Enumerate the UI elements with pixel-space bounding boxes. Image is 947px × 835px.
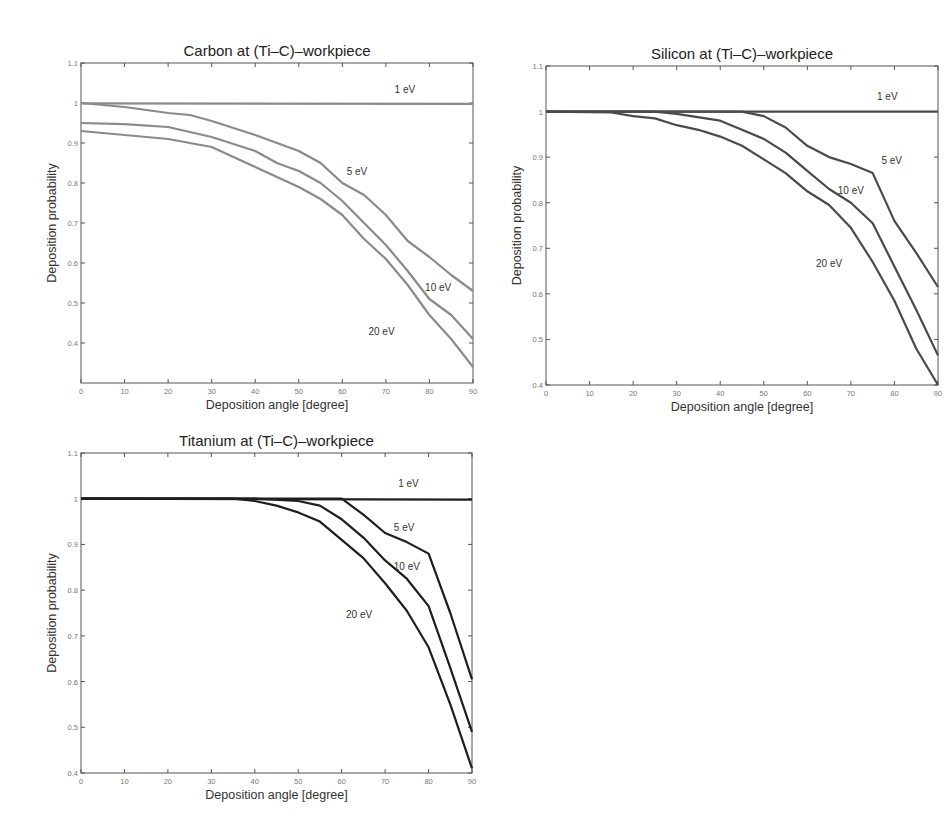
x-tick-label: 70 [382, 387, 390, 396]
x-tick-label: 20 [164, 387, 172, 396]
x-tick-label: 80 [425, 387, 433, 396]
x-tick-label: 30 [672, 389, 680, 398]
x-tick-label: 20 [164, 777, 172, 786]
axes-frame [81, 453, 472, 773]
y-tick-label: 1 [74, 495, 78, 504]
y-tick-label: 1.1 [68, 59, 78, 68]
x-tick-label: 60 [337, 777, 345, 786]
y-tick-label: 0.6 [68, 259, 78, 268]
axes-frame [81, 63, 473, 383]
series-label: 1 eV [877, 91, 898, 102]
y-tick-label: 0.6 [533, 290, 543, 299]
y-tick-label: 0.9 [533, 153, 543, 162]
figure: Carbon at (Ti–C)–workpiece01020304050607… [0, 0, 947, 835]
x-tick-label: 90 [468, 777, 476, 786]
x-tick-label: 60 [803, 389, 811, 398]
x-tick-label: 30 [207, 387, 215, 396]
chart-silicon: Silicon at (Ti–C)–workpiece0102030405060… [510, 45, 942, 414]
x-axis-label: Deposition angle [degree] [205, 788, 347, 802]
x-tick-label: 70 [847, 389, 855, 398]
x-tick-label: 60 [338, 387, 346, 396]
x-tick-label: 40 [251, 387, 259, 396]
series-line-20-ev [546, 112, 938, 385]
chart-titanium: Titanium at (Ti–C)–workpiece010203040506… [45, 432, 476, 802]
x-tick-label: 30 [207, 777, 215, 786]
x-tick-label: 10 [120, 387, 128, 396]
series-line-5-ev [81, 103, 473, 291]
x-tick-label: 70 [381, 777, 389, 786]
series-line-10-ev [81, 499, 472, 732]
y-tick-label: 0.4 [533, 381, 543, 390]
x-tick-label: 0 [79, 387, 83, 396]
series-line-20-ev [81, 499, 472, 769]
y-tick-label: 0.5 [533, 335, 543, 344]
x-tick-label: 50 [295, 387, 303, 396]
x-tick-label: 80 [890, 389, 898, 398]
x-axis-label: Deposition angle [degree] [671, 400, 813, 414]
series-label: 1 eV [395, 84, 416, 95]
chart-title: Carbon at (Ti–C)–workpiece [183, 42, 370, 59]
series-line-10-ev [546, 112, 938, 356]
series-label: 10 eV [425, 282, 451, 293]
y-tick-label: 0.8 [533, 199, 543, 208]
y-tick-label: 1 [539, 108, 543, 117]
chart-carbon: Carbon at (Ti–C)–workpiece01020304050607… [45, 42, 477, 412]
series-label: 10 eV [394, 561, 420, 572]
series-label: 1 eV [398, 478, 419, 489]
y-tick-label: 1 [74, 99, 78, 108]
x-tick-label: 0 [79, 777, 83, 786]
series-label: 20 eV [346, 609, 372, 620]
chart-title: Titanium at (Ti–C)–workpiece [179, 432, 374, 449]
x-tick-label: 40 [716, 389, 724, 398]
series-label: 20 eV [368, 326, 394, 337]
y-tick-label: 0.7 [68, 632, 78, 641]
series-line-20-ev [81, 131, 473, 367]
series-label: 5 eV [347, 166, 368, 177]
x-axis-label: Deposition angle [degree] [206, 398, 348, 412]
y-tick-label: 1.1 [68, 449, 78, 458]
y-tick-label: 0.4 [68, 769, 78, 778]
y-tick-label: 0.6 [68, 678, 78, 687]
y-tick-label: 0.7 [533, 244, 543, 253]
y-tick-label: 0.5 [68, 299, 78, 308]
x-tick-label: 50 [294, 777, 302, 786]
axes-frame [546, 66, 938, 385]
y-axis-label: Deposition probability [510, 165, 524, 285]
x-tick-label: 40 [251, 777, 259, 786]
series-label: 5 eV [394, 522, 415, 533]
chart-title: Silicon at (Ti–C)–workpiece [651, 45, 833, 62]
y-tick-label: 0.4 [68, 339, 78, 348]
x-tick-label: 90 [934, 389, 942, 398]
series-label: 20 eV [816, 258, 842, 269]
y-tick-label: 0.5 [68, 723, 78, 732]
y-tick-label: 0.8 [68, 586, 78, 595]
x-tick-label: 90 [469, 387, 477, 396]
x-tick-label: 0 [544, 389, 548, 398]
y-axis-label: Deposition probability [45, 162, 59, 282]
y-axis-label: Deposition probability [45, 552, 59, 672]
x-tick-label: 50 [760, 389, 768, 398]
x-tick-label: 80 [424, 777, 432, 786]
x-tick-label: 20 [629, 389, 637, 398]
x-tick-label: 10 [120, 777, 128, 786]
series-line-10-ev [81, 123, 473, 339]
y-tick-label: 1.1 [533, 62, 543, 71]
x-tick-label: 10 [585, 389, 593, 398]
series-label: 10 eV [838, 185, 864, 196]
series-label: 5 eV [881, 155, 902, 166]
y-tick-label: 0.8 [68, 179, 78, 188]
series-line-5-ev [546, 112, 938, 287]
y-tick-label: 0.7 [68, 219, 78, 228]
y-tick-label: 0.9 [68, 540, 78, 549]
y-tick-label: 0.9 [68, 139, 78, 148]
